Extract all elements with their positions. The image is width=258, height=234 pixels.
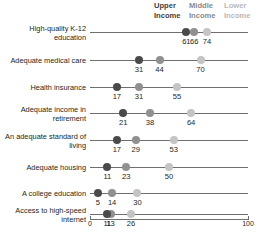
legend-label-line2: Income bbox=[154, 11, 186, 21]
chart-row: Adequate medical care314470 bbox=[0, 52, 258, 78]
data-point-upper-income bbox=[135, 56, 143, 64]
data-value-label: 31 bbox=[135, 65, 143, 74]
data-point-lower-income bbox=[133, 189, 141, 197]
row-label: Adequate medical care bbox=[0, 56, 86, 65]
row-track: 314470 bbox=[90, 52, 248, 78]
data-point-upper-income bbox=[94, 189, 102, 197]
data-point-lower-income bbox=[187, 109, 195, 117]
data-point-middle-income bbox=[108, 189, 116, 197]
row-track: 616674 bbox=[90, 24, 248, 50]
chart-row: High-quality K-12education616674 bbox=[0, 24, 258, 50]
data-point-upper-income bbox=[119, 109, 127, 117]
legend-item-lower-income: LowerIncome bbox=[224, 1, 256, 23]
row-track: 213864 bbox=[90, 105, 248, 131]
data-value-label: 74 bbox=[203, 37, 211, 46]
data-value-label: 44 bbox=[155, 65, 163, 74]
legend-label-line1: Lower bbox=[224, 1, 256, 11]
data-point-middle-income bbox=[122, 163, 130, 171]
row-label: Adequate housing bbox=[0, 163, 86, 172]
chart-row: Adequate income inretirement213864 bbox=[0, 105, 258, 131]
row-track: 173155 bbox=[90, 79, 248, 105]
data-point-lower-income bbox=[203, 28, 211, 36]
data-value-label: 29 bbox=[132, 145, 140, 154]
data-point-lower-income bbox=[170, 136, 178, 144]
data-value-label: 53 bbox=[170, 145, 178, 154]
row-axis-line bbox=[90, 60, 248, 61]
data-point-upper-income bbox=[113, 83, 121, 91]
data-value-label: 13 bbox=[106, 219, 114, 228]
data-point-lower-income bbox=[173, 83, 181, 91]
data-value-label: 66 bbox=[190, 37, 198, 46]
data-point-upper-income bbox=[103, 163, 111, 171]
chart-row: An adequate standard ofliving172953 bbox=[0, 132, 258, 158]
data-value-label: 17 bbox=[113, 92, 121, 101]
legend-label-line1: Middle bbox=[189, 1, 221, 11]
data-value-label: 38 bbox=[146, 118, 154, 127]
legend-label-line2: Income bbox=[189, 11, 221, 21]
data-point-lower-income bbox=[127, 210, 135, 218]
data-point-middle-income bbox=[135, 83, 143, 91]
data-value-label: 11 bbox=[103, 172, 111, 181]
legend-item-middle-income: MiddleIncome bbox=[189, 1, 221, 23]
row-label: Access to high-speedinternet bbox=[0, 206, 86, 224]
data-point-upper-income bbox=[113, 136, 121, 144]
data-point-middle-income bbox=[156, 56, 164, 64]
row-axis-line bbox=[90, 113, 248, 114]
data-point-lower-income bbox=[197, 56, 205, 64]
data-value-label: 21 bbox=[119, 118, 127, 127]
row-label: High-quality K-12education bbox=[0, 24, 86, 42]
x-axis-line bbox=[90, 219, 248, 220]
data-value-label: 55 bbox=[173, 92, 181, 101]
data-value-label: 26 bbox=[127, 219, 135, 228]
data-value-label: 70 bbox=[196, 65, 204, 74]
dot-plot-chart: UpperIncomeMiddleIncomeLowerIncome High-… bbox=[0, 0, 258, 234]
legend-item-upper-income: UpperIncome bbox=[154, 1, 186, 23]
chart-row: Adequate housing112350 bbox=[0, 159, 258, 185]
row-axis-line bbox=[90, 32, 248, 33]
x-axis-max-label: 100 bbox=[242, 220, 254, 227]
chart-legend: UpperIncomeMiddleIncomeLowerIncome bbox=[154, 1, 258, 23]
row-track: 112350 bbox=[90, 159, 248, 185]
data-value-label: 50 bbox=[165, 172, 173, 181]
x-axis-min-label: 0 bbox=[88, 220, 92, 227]
data-point-lower-income bbox=[165, 163, 173, 171]
row-label: A college education bbox=[0, 189, 86, 198]
row-track: 172953 bbox=[90, 132, 248, 158]
row-label: Health insurance bbox=[0, 83, 86, 92]
data-point-middle-income bbox=[190, 28, 198, 36]
data-value-label: 23 bbox=[122, 172, 130, 181]
row-label: Adequate income inretirement bbox=[0, 105, 86, 123]
row-label: An adequate standard ofliving bbox=[0, 132, 86, 150]
data-value-label: 17 bbox=[113, 145, 121, 154]
data-value-label: 64 bbox=[187, 118, 195, 127]
data-point-middle-income bbox=[132, 136, 140, 144]
legend-label-line1: Upper bbox=[154, 1, 186, 11]
data-point-middle-income bbox=[146, 109, 154, 117]
data-point-upper-income bbox=[182, 28, 190, 36]
legend-label-line2: Income bbox=[224, 11, 256, 21]
data-value-label: 31 bbox=[135, 92, 143, 101]
chart-row: Health insurance173155 bbox=[0, 79, 258, 105]
